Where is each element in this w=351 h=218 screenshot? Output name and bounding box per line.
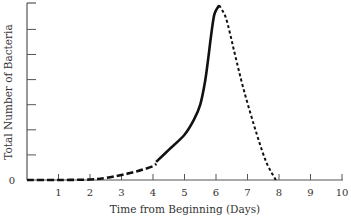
chart-axes	[27, 3, 343, 180]
x-tick-label: 7	[244, 187, 250, 198]
x-tick-label: 8	[276, 187, 282, 198]
x-tick-label: 1	[55, 187, 61, 198]
x-tick-label: 5	[181, 187, 187, 198]
x-tick-label: 2	[87, 187, 93, 198]
growth-curve	[27, 5, 276, 180]
x-axis-title: Time from Beginning (Days)	[110, 203, 260, 215]
curve-dashed	[27, 164, 156, 180]
y-zero-label: 0	[9, 175, 15, 186]
axis-ticks	[27, 29, 342, 180]
x-tick-label: 3	[118, 187, 124, 198]
y-axis-title: Total Number of Bacteria	[2, 24, 14, 159]
bacterial-growth-chart: 12345678910 Total Number of Bacteria Tim…	[0, 0, 351, 218]
x-tick-label: 10	[336, 187, 349, 198]
curve-dotted	[219, 5, 276, 180]
x-tick-label: 4	[150, 187, 156, 198]
tick-labels: 12345678910	[55, 187, 348, 198]
x-tick-label: 9	[307, 187, 313, 198]
x-tick-label: 6	[213, 187, 219, 198]
curve-solid	[156, 5, 219, 162]
